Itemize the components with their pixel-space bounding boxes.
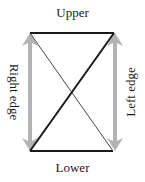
left-double-arrow	[22, 33, 38, 151]
upper-label: Upper	[0, 5, 145, 21]
right-edge-label: Right edge	[6, 42, 22, 142]
left-edge-label: Left edge	[123, 42, 139, 142]
lower-label: Lower	[0, 160, 145, 176]
right-double-arrow	[107, 33, 123, 151]
